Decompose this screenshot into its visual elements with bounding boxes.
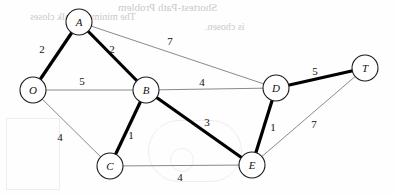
edge-weight-C-E: 4 — [177, 171, 183, 183]
edge-weight-E-T: 7 — [311, 118, 317, 130]
edge-weight-O-A: 2 — [39, 43, 45, 55]
edge-weight-B-E: 3 — [204, 116, 210, 128]
node-label-B: B — [143, 84, 150, 96]
edge-A-D — [79, 22, 276, 88]
figure-canvas: Shortest-Path Problem The minimum walk c… — [0, 0, 396, 195]
edge-O-C — [33, 90, 110, 166]
edge-weight-O-C: 4 — [57, 131, 63, 143]
node-label-O: O — [29, 84, 37, 96]
node-label-D: D — [271, 82, 280, 94]
node-label-T: T — [362, 62, 369, 74]
edge-weight-group: 2 2 7 5 4 5 4 1 3 1 7 4 — [39, 35, 318, 183]
edge-weight-D-T: 5 — [312, 65, 318, 77]
node-label-E: E — [248, 159, 256, 171]
edge-B-E — [146, 90, 252, 165]
node-label-C: C — [106, 160, 114, 172]
edge-A-B — [79, 22, 146, 90]
edge-group — [33, 22, 365, 166]
edge-weight-A-D: 7 — [167, 35, 173, 47]
node-label-group: A O B C D E T — [29, 16, 369, 172]
edge-C-E — [110, 165, 252, 166]
edge-weight-D-E: 1 — [270, 121, 276, 133]
node-label-A: A — [75, 16, 83, 28]
edge-weight-B-C: 1 — [128, 129, 134, 141]
edge-weight-O-B: 5 — [79, 75, 85, 87]
edge-B-D — [146, 88, 276, 90]
edge-D-T — [276, 68, 365, 88]
edge-weight-B-D: 4 — [199, 76, 205, 88]
edge-weight-A-B: 2 — [109, 43, 115, 55]
graph-svg: A O B C D E T 2 2 7 5 4 5 4 1 3 1 7 4 — [0, 0, 396, 195]
node-group — [20, 9, 378, 179]
